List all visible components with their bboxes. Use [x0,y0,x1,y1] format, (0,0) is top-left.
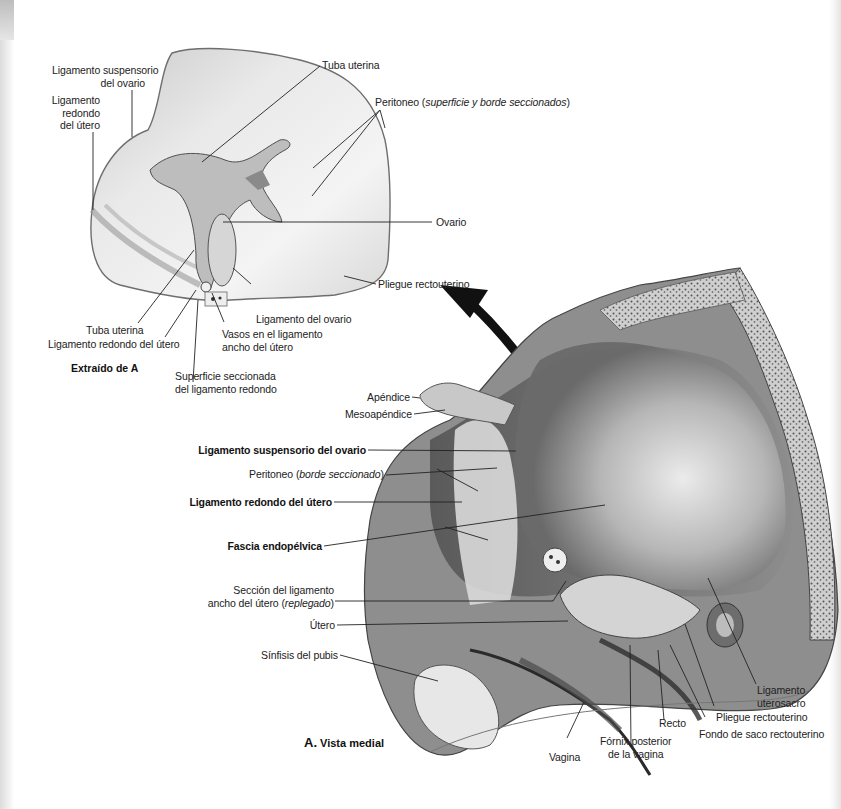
label-ligamento-del-ovario: Ligamento del ovario [256,313,351,326]
label-peritoneo-superficie-borde: Peritoneo (superficie y borde seccionado… [375,96,570,109]
label-seccion-ligamento-ancho: Sección del ligamento ancho del útero (r… [200,584,334,609]
label-ligamento-suspensorio-ovario-inset: Ligamento suspensorio del ovario [52,64,145,89]
label-ligamento-suspensorio-ovario: Ligamento suspensorio del ovario [180,444,366,457]
label-ligamento-redondo-utero: Ligamento redondo del útero [160,496,332,509]
label-fornix-posterior-vagina: Fórnix posterior de la vagina [600,735,671,760]
label-vasos-ligamento-ancho: Vasos en el ligamento ancho del útero [222,328,322,353]
label-recto: Recto [659,717,686,730]
main-caption: A. Vista medial [304,735,384,750]
label-fondo-saco-rectouterino: Fondo de saco rectouterino [699,728,824,741]
inset-caption: Extraído de A [71,362,138,374]
label-ligamento-uterosacro: Ligamento uterosacro [757,684,806,709]
label-pliegue-rectouterino-inset: Pliegue rectouterino [378,278,469,291]
label-superficie-seccionada: Superficie seccionada del ligamento redo… [175,370,277,395]
label-mesoapendice: Mesoapéndice [320,408,412,421]
label-fascia-endopelvica: Fascia endopélvica [200,540,322,553]
label-peritoneo-borde-seccionado: Peritoneo (borde seccionado) [200,468,384,481]
label-ligamento-redondo-utero-inset: Ligamento redondo del útero [48,94,100,132]
label-sinfisis-pubis: Sínfisis del pubis [230,649,338,662]
anatomy-illustration [0,0,841,809]
label-tuba-uterina-bottom: Tuba uterina [86,324,143,337]
label-pliegue-rectouterino: Pliegue rectouterino [716,711,807,724]
label-vagina: Vagina [549,751,580,764]
label-ligamento-redondo-utero-bottom: Ligamento redondo del útero [48,338,180,351]
label-ovario: Ovario [436,216,466,229]
label-apendice: Apéndice [330,391,410,404]
label-tuba-uterina-top: Tuba uterina [322,59,379,72]
label-utero: Útero [290,619,335,632]
